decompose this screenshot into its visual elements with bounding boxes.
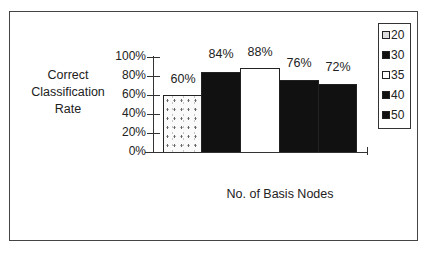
legend-label: 35 [391, 68, 404, 82]
y-axis-title: Correct Classification Rate [28, 67, 108, 118]
bar-20 [163, 95, 202, 153]
value-label-20: 60% [163, 72, 203, 86]
value-label-40: 76% [279, 56, 319, 70]
value-label-30: 84% [201, 47, 241, 61]
value-label-35: 88% [240, 45, 280, 59]
y-axis-title-line-3: Rate [28, 101, 108, 118]
y-axis-title-line-2: Classification [28, 84, 108, 101]
legend-swatch-black [382, 51, 390, 59]
x-axis-title: No. of Basis Nodes [200, 187, 360, 201]
legend-label: 40 [391, 88, 404, 102]
legend-item-35: 35 [382, 68, 404, 82]
y-tick-label-60: 60% [102, 87, 146, 101]
x-axis-line [145, 152, 368, 153]
y-axis-line [153, 56, 154, 153]
legend-swatch-black [382, 91, 390, 99]
legend-swatch-white [382, 71, 390, 79]
legend-label: 20 [391, 28, 404, 42]
legend-label: 50 [391, 108, 404, 122]
value-label-50: 72% [318, 60, 358, 74]
y-tick-label-100: 100% [102, 49, 146, 63]
legend-item-20: 20 [382, 28, 404, 42]
legend-item-40: 40 [382, 88, 404, 102]
legend-item-30: 30 [382, 48, 404, 62]
y-tick-label-20: 20% [102, 125, 146, 139]
legend-item-50: 50 [382, 108, 404, 122]
legend: 20 30 35 40 50 [378, 23, 411, 129]
bar-40 [279, 80, 319, 153]
x-axis-end-tick [367, 147, 368, 155]
bar-50 [318, 84, 357, 153]
y-tick-label-0: 0% [102, 144, 146, 158]
y-axis-title-line-1: Correct [28, 67, 108, 84]
y-tick-label-80: 80% [102, 68, 146, 82]
bar-30 [201, 72, 241, 153]
y-tick-label-40: 40% [102, 106, 146, 120]
bar-35 [240, 68, 280, 153]
legend-label: 30 [391, 48, 404, 62]
legend-swatch-dotted [382, 31, 390, 39]
legend-swatch-black [382, 111, 390, 119]
